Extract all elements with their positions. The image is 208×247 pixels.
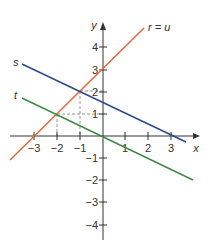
coordinate-graph: −3 −2 −1 1 2 3 4 3 2 1 −1 −2 −3 −4 x y r… — [0, 0, 208, 247]
line-t — [22, 98, 193, 180]
x-tick-label: −3 — [28, 142, 41, 154]
y-tick-label: −4 — [85, 219, 98, 231]
x-tick-label: −2 — [51, 142, 64, 154]
x-axis-arrow-icon — [193, 133, 200, 139]
y-tick-label: 4 — [92, 41, 98, 53]
y-tick-label: 2 — [92, 86, 98, 98]
y-tick-label: −2 — [85, 174, 98, 186]
x-axis-label: x — [192, 142, 199, 154]
line-label-s: s — [13, 56, 19, 68]
line-label-t: t — [14, 89, 18, 101]
y-tick-label: 1 — [92, 108, 98, 120]
y-axis — [99, 22, 107, 240]
line-r-equals-u — [10, 28, 144, 160]
y-tick-label: −3 — [85, 196, 98, 208]
x-axis — [10, 132, 200, 140]
line-label-r-u: r = u — [148, 21, 170, 33]
x-tick-label: 3 — [168, 142, 174, 154]
x-tick-label: −1 — [74, 142, 87, 154]
x-tick-labels: −3 −2 −1 1 2 3 — [28, 142, 174, 154]
y-axis-label: y — [90, 19, 98, 31]
y-axis-arrow-icon — [100, 22, 106, 30]
x-tick-label: 2 — [145, 142, 151, 154]
y-tick-label: −1 — [85, 152, 98, 164]
line-s — [22, 64, 186, 142]
